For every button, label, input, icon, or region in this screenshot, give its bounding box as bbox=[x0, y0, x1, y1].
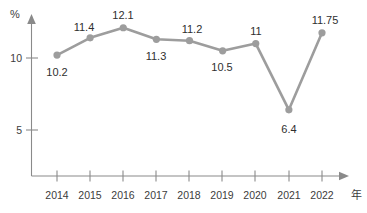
x-tick-label: 2017 bbox=[144, 189, 168, 201]
data-point bbox=[318, 29, 325, 36]
data-point bbox=[186, 37, 193, 44]
x-tick-label: 2018 bbox=[177, 189, 201, 201]
chart-canvas: % 年 10 5 2014 2015 2016 2017 2018 2019 2… bbox=[0, 0, 367, 213]
y-axis-arrow-icon bbox=[27, 14, 36, 24]
data-value-label: 12.1 bbox=[112, 9, 133, 21]
data-point bbox=[252, 40, 259, 47]
x-tick-label: 2019 bbox=[210, 189, 234, 201]
x-tick-label: 2020 bbox=[243, 189, 267, 201]
data-point bbox=[285, 106, 292, 113]
x-tick-label: 2015 bbox=[78, 189, 102, 201]
data-value-label: 11.75 bbox=[312, 14, 339, 26]
x-tick-label: 2021 bbox=[277, 189, 301, 201]
x-axis-unit-label: 年 bbox=[351, 188, 362, 201]
line-chart: % 年 10 5 2014 2015 2016 2017 2018 2019 2… bbox=[0, 0, 367, 213]
data-value-label: 11 bbox=[250, 25, 261, 37]
data-value-label: 11.2 bbox=[182, 23, 203, 35]
x-tick-label: 2014 bbox=[45, 189, 69, 201]
x-tick-label: 2022 bbox=[310, 189, 334, 201]
data-point bbox=[53, 52, 60, 59]
data-point bbox=[219, 47, 226, 54]
y-axis-unit-label: % bbox=[10, 8, 20, 20]
data-point bbox=[87, 34, 94, 41]
y-tick-label: 5 bbox=[16, 124, 22, 136]
data-value-label: 6.4 bbox=[281, 123, 296, 135]
data-value-label: 11.3 bbox=[146, 50, 167, 62]
data-value-label: 11.4 bbox=[74, 21, 95, 33]
data-value-label: 10.2 bbox=[46, 66, 67, 78]
y-tick-label: 10 bbox=[10, 52, 22, 64]
data-point bbox=[120, 24, 127, 31]
x-axis-arrow-icon bbox=[339, 172, 349, 180]
data-value-label: 10.5 bbox=[211, 61, 232, 73]
data-point bbox=[153, 36, 160, 43]
x-tick-label: 2016 bbox=[111, 189, 135, 201]
